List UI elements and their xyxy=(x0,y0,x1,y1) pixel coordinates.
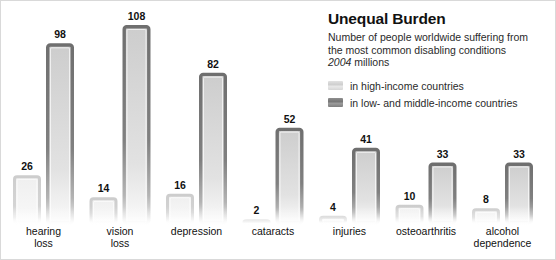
baseline-fade xyxy=(1,207,556,225)
bar-value-label: 52 xyxy=(270,114,310,125)
category-label: injuries xyxy=(309,225,390,237)
chart-subtitle-line-3: 2004 millions xyxy=(328,56,550,69)
category-label-line-2: loss xyxy=(3,237,84,249)
legend-item-low-middle-income: in low- and middle-income countries xyxy=(328,96,554,109)
category-label: osteoarthritis xyxy=(386,225,467,237)
bar-value-label: 2 xyxy=(237,205,277,216)
bar-value-label: 33 xyxy=(423,149,463,160)
category-label-line-1: alcohol xyxy=(462,225,543,237)
legend: in high-income countries in low- and mid… xyxy=(328,79,554,113)
category-label-line-1: hearing xyxy=(3,225,84,237)
bar-low-middle-income xyxy=(124,27,149,223)
legend-item-high-income: in high-income countries xyxy=(328,79,554,92)
category-label: visionloss xyxy=(80,225,161,249)
bar-value-label: 82 xyxy=(193,59,233,70)
category-label-line-1: vision xyxy=(80,225,161,237)
bar-value-label: 26 xyxy=(7,161,47,172)
category-label-line-2: dependence xyxy=(462,237,543,249)
bar-value-label: 8 xyxy=(466,194,506,205)
bar-low-middle-income xyxy=(201,74,226,223)
category-axis: hearinglossvisionlossdepressioncataracts… xyxy=(1,225,556,259)
legend-swatch-high-income xyxy=(328,81,343,90)
bar-group xyxy=(15,45,73,223)
chart-subtitle-line-2: the most common disabling conditions xyxy=(328,44,550,57)
category-label-line-2: loss xyxy=(80,237,161,249)
bar-value-label: 16 xyxy=(160,180,200,191)
title-block: Unequal Burden Number of people worldwid… xyxy=(328,10,550,69)
chart-figure: 26981410816822524411033833 hearinglossvi… xyxy=(0,0,556,260)
category-label: depression xyxy=(156,225,237,237)
bar-value-label: 41 xyxy=(346,134,386,145)
bar-low-middle-income xyxy=(48,45,73,223)
category-label-line-1: depression xyxy=(156,225,237,237)
category-label-line-1: cataracts xyxy=(233,225,314,237)
chart-title: Unequal Burden xyxy=(328,10,550,28)
bar-value-label: 4 xyxy=(313,202,353,213)
category-label: cataracts xyxy=(233,225,314,237)
category-label-line-1: injuries xyxy=(309,225,390,237)
bar-group xyxy=(168,74,226,223)
bar-value-label: 14 xyxy=(84,183,124,194)
subtitle-year: 2004 xyxy=(328,56,351,68)
legend-label-low-middle-income: in low- and middle-income countries xyxy=(350,97,518,109)
bar-value-label: 10 xyxy=(390,191,430,202)
category-label-line-1: osteoarthritis xyxy=(386,225,467,237)
chart-subtitle-line-1: Number of people worldwide suffering fro… xyxy=(328,31,550,44)
legend-label-high-income: in high-income countries xyxy=(350,80,464,92)
legend-swatch-low-middle-income xyxy=(328,98,343,107)
category-label: alcoholdependence xyxy=(462,225,543,249)
bar-value-label: 108 xyxy=(117,11,157,22)
subtitle-unit: millions xyxy=(354,56,389,68)
bar-value-label: 33 xyxy=(499,149,539,160)
category-label: hearingloss xyxy=(3,225,84,249)
bar-value-label: 98 xyxy=(40,29,80,40)
